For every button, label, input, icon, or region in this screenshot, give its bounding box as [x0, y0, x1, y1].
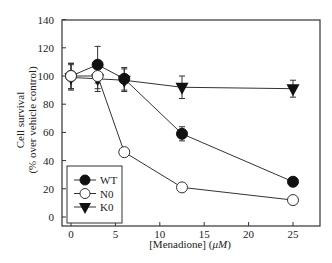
y-axis-title: Cell survival [14, 92, 26, 149]
x-tick-label: 0 [68, 228, 74, 240]
y-tick-label: 140 [38, 14, 55, 26]
filled-circle-marker [80, 175, 90, 185]
open-circle-marker [177, 182, 188, 193]
chart: 020406080100120140 0510152025 WTN0K0 Cel… [0, 0, 332, 263]
y-tick-label: 100 [38, 70, 55, 82]
y-tick-label: 120 [38, 42, 55, 54]
open-circle-marker [80, 189, 90, 199]
legend-label: N0 [100, 188, 114, 200]
filled-circle-marker [288, 176, 299, 187]
x-tick-label: 5 [113, 228, 119, 240]
filled-circle-marker [177, 128, 188, 139]
triangle-down-marker [176, 83, 189, 95]
y-tick-label: 20 [43, 183, 55, 195]
y-axis-subtitle: (% over vehicle control) [26, 66, 39, 174]
y-tick-label: 0 [49, 211, 55, 223]
legend-label: K0 [100, 201, 114, 213]
legend-label: WT [100, 174, 117, 186]
x-tick-label: 20 [243, 228, 255, 240]
y-tick-label: 80 [43, 98, 55, 110]
x-tick-label: 25 [288, 228, 300, 240]
y-tick-label: 40 [43, 155, 55, 167]
open-circle-marker [288, 195, 299, 206]
triangle-down-marker [287, 84, 300, 96]
open-circle-marker [119, 147, 130, 158]
y-tick-label: 60 [43, 126, 55, 138]
open-circle-marker [66, 71, 77, 82]
legend: WTN0K0 [67, 166, 122, 223]
filled-circle-marker [92, 59, 103, 70]
open-circle-marker [92, 71, 103, 82]
x-axis-title: [Menadione] (μM) [149, 238, 231, 251]
filled-circle-marker [119, 73, 130, 84]
